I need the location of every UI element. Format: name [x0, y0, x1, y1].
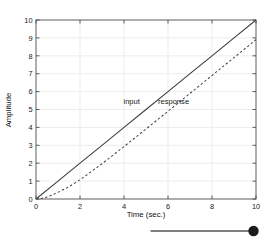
annotation-response: response — [158, 97, 189, 106]
y-tick-label: 8 — [28, 52, 32, 61]
figure-panel: 0246810 012345678910 Time (sec.) Amplitu… — [0, 0, 277, 244]
x-tick-label: 2 — [78, 202, 82, 211]
x-tick-label: 0 — [34, 202, 38, 211]
y-tick-label: 10 — [24, 16, 32, 25]
y-tick-label: 5 — [28, 105, 32, 114]
y-tick-label: 3 — [28, 141, 32, 150]
y-tick-label: 2 — [28, 159, 32, 168]
y-tick-label: 9 — [28, 34, 32, 43]
pointer-dot-icon — [248, 226, 258, 236]
y-tick-label: 0 — [28, 195, 32, 204]
x-tick-label: 8 — [210, 202, 214, 211]
x-tick-label: 4 — [122, 202, 126, 211]
y-tick-label: 7 — [28, 69, 32, 78]
pointer-line-with-dot — [151, 226, 259, 236]
annotation-input: input — [123, 97, 140, 106]
y-tick-label: 1 — [28, 177, 32, 186]
y-tick-label: 6 — [28, 87, 32, 96]
y-axis-tick-labels: 012345678910 — [24, 16, 32, 204]
x-tick-label: 6 — [166, 202, 170, 211]
x-tick-label: 10 — [252, 202, 260, 211]
ramp-response-chart: 0246810 012345678910 Time (sec.) Amplitu… — [0, 0, 277, 244]
y-axis-label: Amplitude — [4, 93, 13, 128]
y-tick-label: 4 — [28, 123, 32, 132]
x-axis-label: Time (sec.) — [127, 210, 166, 219]
